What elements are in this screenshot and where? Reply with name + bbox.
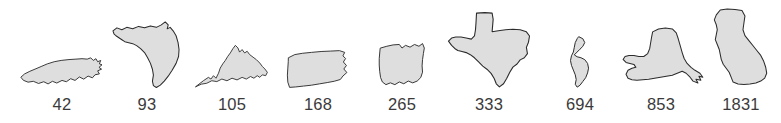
state-glyph-container — [440, 10, 538, 90]
state-glyph-container — [10, 50, 114, 90]
state-glyph-container — [702, 6, 780, 90]
state-value-label: 1831 — [702, 96, 780, 113]
state-glyph-container — [104, 18, 190, 90]
state-value-label: 694 — [543, 96, 617, 113]
state-value-label: 265 — [362, 96, 442, 113]
state-california-icon — [709, 6, 773, 90]
state-value-label: 93 — [104, 96, 190, 113]
state-glyph-container — [188, 42, 276, 90]
state-item-florida: 93 — [104, 0, 190, 123]
pictorial-chart-figure: 42 93 105 — [0, 0, 781, 123]
state-item-new-jersey: 694 — [543, 0, 617, 123]
state-north-carolina-icon — [18, 50, 106, 90]
state-glyph-row: 42 93 105 — [0, 0, 781, 123]
state-texas-icon — [444, 10, 534, 90]
state-glyph-container — [273, 48, 363, 90]
state-value-label: 105 — [188, 96, 276, 113]
state-virginia-icon — [194, 42, 270, 90]
state-item-ohio: 265 — [362, 0, 442, 123]
state-value-label: 853 — [614, 96, 708, 113]
state-item-new-york: 853 — [614, 0, 708, 123]
state-glyph-container — [614, 24, 708, 90]
state-value-label: 42 — [10, 96, 114, 113]
state-item-virginia: 105 — [188, 0, 276, 123]
state-item-pennsylvania: 168 — [273, 0, 363, 123]
state-new-york-icon — [617, 24, 705, 90]
state-value-label: 168 — [273, 96, 363, 113]
state-glyph-container — [543, 34, 617, 90]
state-item-north-carolina: 42 — [10, 0, 114, 123]
state-item-california: 1831 — [702, 0, 780, 123]
state-glyph-container — [362, 40, 442, 90]
state-new-jersey-icon — [564, 34, 596, 90]
state-florida-icon — [110, 18, 184, 90]
state-pennsylvania-icon — [285, 48, 351, 90]
state-value-label: 333 — [440, 96, 538, 113]
state-ohio-icon — [374, 40, 430, 90]
state-item-texas: 333 — [440, 0, 538, 123]
